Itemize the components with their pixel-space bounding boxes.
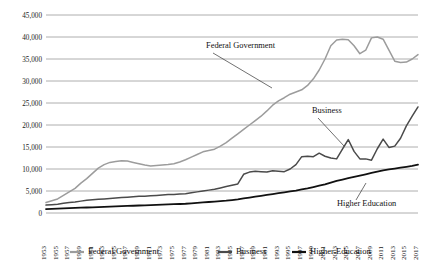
x-axis-tick-label: 2011: [377, 246, 385, 260]
y-axis-tick-label: 35,000: [22, 56, 42, 64]
x-axis-tick-label: 1955: [52, 246, 60, 261]
y-axis-tick-label: 15,000: [22, 144, 42, 152]
line-chart: 05,00010,00015,00020,00025,00030,00035,0…: [0, 0, 424, 263]
x-axis-tick-label: 1981: [203, 246, 211, 261]
chart-container: 05,00010,00015,00020,00025,00030,00035,0…: [0, 0, 424, 263]
annotation-label: Higher Education: [337, 199, 397, 208]
y-axis-tick-label: 0: [38, 210, 42, 218]
x-axis-tick-label: 1953: [40, 246, 48, 261]
y-axis-tick-label: 25,000: [22, 100, 42, 108]
annotation-label: Federal Government: [206, 41, 276, 50]
y-axis-tick-label: 10,000: [22, 166, 42, 174]
y-axis-tick-label: 30,000: [22, 78, 42, 86]
x-axis-tick-label: 1995: [284, 246, 292, 261]
x-axis-tick-label: 1975: [168, 246, 176, 261]
x-axis-tick-label: 1979: [191, 246, 199, 261]
x-axis-tick-label: 1977: [180, 246, 188, 261]
legend-label: Business: [236, 246, 267, 256]
annotation-leader-line: [318, 118, 344, 146]
x-axis-tick-label: 2015: [400, 246, 408, 261]
legend-label: Higher Education: [310, 246, 372, 256]
x-axis-tick-label: 2013: [389, 246, 397, 261]
annotation-leader-line: [213, 53, 272, 88]
legend-label: Federal Government: [88, 246, 159, 256]
annotations: Federal GovernmentBusinessHigher Educati…: [206, 41, 397, 208]
annotation-label: Business: [312, 106, 342, 115]
annotation-leader-line: [356, 183, 366, 200]
series-group: [46, 37, 418, 209]
y-axis-tick-label: 45,000: [22, 12, 42, 20]
y-axis-tick-label: 40,000: [22, 34, 42, 42]
series-line-federal-government: [46, 37, 418, 202]
x-axis-tick-label: 1993: [273, 246, 281, 261]
x-axis-tick-label: 2017: [412, 246, 420, 261]
y-axis-tick-label: 20,000: [22, 122, 42, 130]
y-axis-tick-label: 5,000: [26, 188, 43, 196]
series-line-business: [46, 107, 418, 205]
